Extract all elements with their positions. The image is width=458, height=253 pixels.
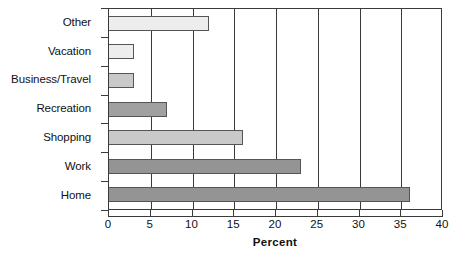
x-axis-tick-label-5: 5 — [147, 219, 153, 231]
category-label-shopping: Shopping — [0, 123, 100, 152]
x-axis-tick-0 — [108, 210, 109, 217]
y-axis-tick — [101, 95, 108, 96]
bar-recreation[interactable] — [109, 102, 167, 117]
x-axis-tick-40 — [442, 210, 443, 217]
category-label-other: Other — [0, 8, 100, 37]
x-axis-tick-label-35: 35 — [394, 219, 407, 231]
bar-row — [109, 38, 441, 67]
x-axis-tick-label-10: 10 — [185, 219, 198, 231]
x-axis-tick-10 — [192, 210, 193, 217]
y-axis-tick — [101, 210, 108, 211]
y-axis-tick — [101, 181, 108, 182]
x-axis-tick-label-40: 40 — [436, 219, 449, 231]
category-label-work: Work — [0, 152, 100, 181]
bar-row — [109, 180, 441, 209]
bar-row — [109, 95, 441, 124]
category-axis-labels: Other Vacation Business/Travel Recreatio… — [0, 8, 100, 210]
plot-area — [108, 8, 442, 210]
x-axis-tick-label-0: 0 — [105, 219, 111, 231]
x-axis-tick-label-25: 25 — [310, 219, 323, 231]
category-label-home: Home — [0, 181, 100, 210]
y-axis-tick — [101, 66, 108, 67]
bar-chart: Other Vacation Business/Travel Recreatio… — [0, 0, 458, 253]
bar-other[interactable] — [109, 16, 209, 31]
y-axis-tick — [101, 152, 108, 153]
x-axis-tick-30 — [359, 210, 360, 217]
y-axis-tick — [101, 8, 108, 9]
bar-vacation[interactable] — [109, 44, 134, 59]
x-axis-tick-20 — [275, 210, 276, 217]
x-axis-tick-label-30: 30 — [352, 219, 365, 231]
category-label-business-travel: Business/Travel — [0, 66, 100, 95]
bar-home[interactable] — [109, 187, 410, 202]
bar-row — [109, 123, 441, 152]
category-label-recreation: Recreation — [0, 95, 100, 124]
bar-row — [109, 152, 441, 181]
y-axis-tick — [101, 37, 108, 38]
x-axis-tick-25 — [317, 210, 318, 217]
bar-business-travel[interactable] — [109, 73, 134, 88]
bar-series — [109, 9, 441, 209]
category-label-vacation: Vacation — [0, 37, 100, 66]
x-axis-tick-label-15: 15 — [227, 219, 240, 231]
bar-row — [109, 66, 441, 95]
x-axis-tick-35 — [400, 210, 401, 217]
bar-work[interactable] — [109, 159, 301, 174]
bar-row — [109, 9, 441, 38]
x-axis-title: Percent — [108, 236, 442, 248]
y-axis-tick — [101, 123, 108, 124]
x-axis-tick-5 — [150, 210, 151, 217]
bar-shopping[interactable] — [109, 130, 243, 145]
x-axis-tick-15 — [233, 210, 234, 217]
x-axis-tick-label-20: 20 — [269, 219, 282, 231]
